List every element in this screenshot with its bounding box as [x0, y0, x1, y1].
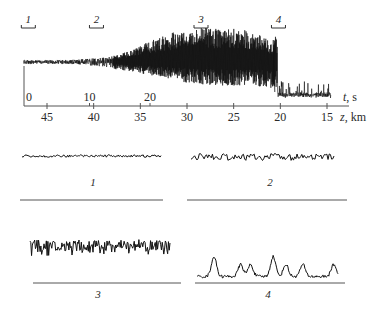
z-tick-label: 30 [181, 110, 193, 124]
z-tick-label: 35 [134, 110, 146, 124]
panel-1: 1 [20, 155, 163, 200]
z-tick-label: 20 [274, 110, 286, 124]
segment-2-trace [191, 154, 334, 161]
segment-bracket [89, 25, 103, 28]
t-axis-ticks: 01020 [26, 90, 156, 106]
segment-bracket [21, 25, 35, 28]
t-tick-label: 0 [26, 90, 32, 104]
segment-markers: 1234 [21, 13, 285, 28]
segment-4-trace [197, 255, 338, 278]
t-tick-label: 10 [84, 90, 96, 104]
t-axis-label: t, s [343, 90, 357, 104]
panel-2: 2 [187, 154, 347, 200]
z-tick-label: 25 [228, 110, 240, 124]
main-record-plot: 1234 01020 45403530252015 t, s z, km [21, 13, 366, 124]
panel-2-label: 2 [267, 176, 273, 188]
main-trace [24, 28, 331, 98]
segment-marker-label: 2 [94, 13, 100, 25]
z-tick-label: 40 [88, 110, 100, 124]
segment-bracket [271, 25, 285, 28]
figure: 1234 01020 45403530252015 t, s z, km 1 2… [0, 0, 383, 311]
z-tick-label: 15 [321, 110, 333, 124]
segment-marker-label: 1 [26, 13, 32, 25]
z-tick-label: 45 [41, 110, 53, 124]
segment-bracket [194, 25, 208, 28]
main-trace-line [24, 28, 331, 98]
panel-1-label: 1 [90, 176, 96, 188]
segment-3-trace [30, 240, 170, 256]
segment-1-trace [22, 155, 161, 157]
panel-4: 4 [195, 255, 345, 300]
segment-marker-label: 3 [197, 13, 204, 25]
panel-3-label: 3 [94, 288, 101, 300]
panel-3: 3 [30, 240, 181, 300]
t-tick-label: 20 [144, 90, 156, 104]
panel-4-label: 4 [265, 288, 271, 300]
segment-marker-label: 4 [276, 13, 282, 25]
z-axis-label: z, km [339, 110, 367, 124]
